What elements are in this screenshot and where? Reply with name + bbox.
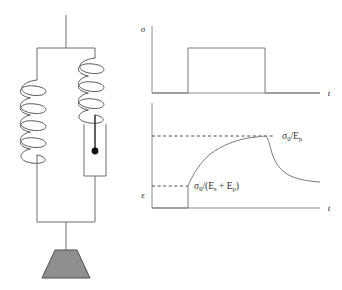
lower-level-plus: + E	[217, 181, 233, 191]
stress-y-axis-label: σ	[141, 24, 146, 34]
lower-level-divider-open: /(E	[202, 181, 214, 192]
figure-canvas: σ t ε t σ0/Ep	[0, 0, 342, 290]
strain-chart: ε t σ0/Ep σ0/(Es + Ep)	[141, 103, 331, 213]
figure-root: σ t ε t σ0/Ep	[0, 0, 342, 290]
stress-chart: σ t	[141, 24, 331, 98]
strain-creep-recovery-curve	[152, 136, 320, 208]
lower-level-label: σ0/(Es + Ep)	[194, 181, 239, 192]
dashpot-piston-dot	[92, 148, 99, 155]
upper-level-label: σ0/Ep	[282, 131, 303, 142]
series-spring-coil	[78, 58, 104, 123]
ground-support	[42, 250, 90, 278]
stress-x-axis-label: t	[328, 88, 331, 98]
upper-level-modulus-subscript: p	[299, 135, 303, 142]
strain-y-axis-label: ε	[141, 190, 145, 200]
standard-linear-solid-model	[20, 15, 106, 278]
strain-x-axis-label: t	[328, 203, 331, 213]
upper-level-divider: /E	[290, 131, 299, 141]
parallel-spring-coil	[20, 80, 46, 163]
svg-text:σ0/(Es + Ep): σ0/(Es + Ep)	[194, 181, 239, 192]
stress-step-curve	[152, 48, 320, 93]
svg-text:σ0/Ep: σ0/Ep	[282, 131, 303, 142]
lower-level-close-paren: )	[236, 181, 239, 192]
